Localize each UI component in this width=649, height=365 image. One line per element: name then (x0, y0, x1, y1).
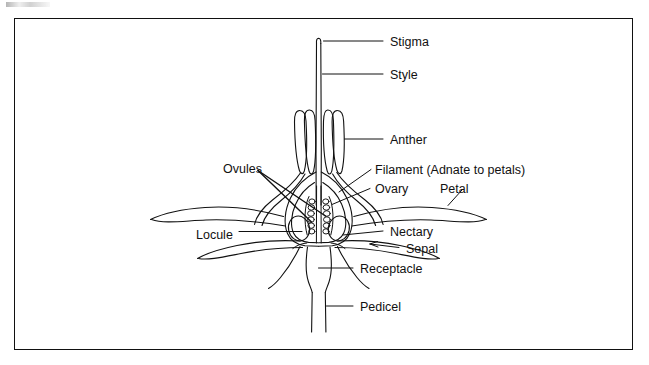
label-locule: Locule (196, 229, 233, 242)
stigma-tip (316, 38, 320, 43)
leader-ovules-right (258, 171, 326, 217)
receptacle-base (269, 247, 370, 293)
ovary-wall (285, 172, 352, 246)
label-sepal: Sepal (406, 243, 438, 256)
label-anther: Anther (390, 134, 427, 147)
label-receptacle: Receptacle (360, 263, 423, 276)
label-ovules: Ovules (223, 163, 262, 176)
label-stigma: Stigma (390, 36, 429, 49)
sepal-pair (198, 241, 440, 259)
label-style: Style (390, 69, 418, 82)
petal-pair (151, 207, 487, 226)
label-petal: Petal (440, 183, 469, 196)
label-nectary: Nectary (390, 226, 433, 239)
locule-cavities (286, 214, 352, 243)
anther-lobes (294, 110, 344, 174)
label-ovary: Ovary (375, 183, 408, 196)
style-column (316, 44, 321, 206)
pedicel-stalk (312, 293, 326, 333)
flower-diagram (0, 0, 649, 365)
label-filament: Filament (Adnate to petals) (375, 164, 525, 177)
label-pedicel: Pedicel (360, 301, 401, 314)
figure-page: Stigma Style Anther Filament (Adnate to … (0, 0, 649, 365)
leader-ovules-left (258, 171, 312, 223)
